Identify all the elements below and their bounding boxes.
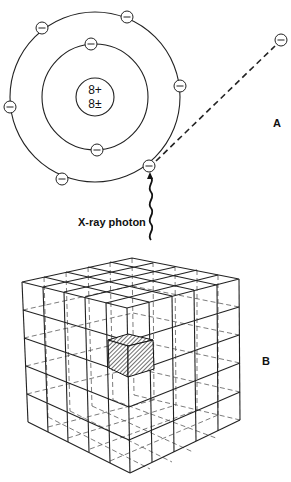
panel-b-label: B	[262, 355, 270, 367]
highlighted-voxel	[108, 334, 154, 377]
arrowhead-icon	[147, 172, 153, 179]
xray-photon-arrow	[150, 176, 153, 240]
electron-icon	[174, 80, 186, 92]
electrons	[4, 11, 287, 185]
xray-photon-label: X-ray photon	[78, 216, 146, 228]
electron-icon	[143, 160, 155, 172]
electron-icon	[85, 38, 97, 50]
electron-icon	[91, 144, 103, 156]
nucleus-protons-label: 8+	[80, 83, 110, 97]
ejected-electron-icon	[275, 34, 287, 46]
electron-icon	[56, 173, 68, 185]
electron-icon	[121, 11, 133, 23]
ejection-path	[156, 46, 275, 161]
figure-canvas	[0, 0, 291, 482]
panel-a-label: A	[273, 117, 281, 129]
electron-icon	[4, 101, 16, 113]
nucleus-neutrons-label: 8±	[80, 97, 110, 111]
electron-icon	[36, 22, 48, 34]
